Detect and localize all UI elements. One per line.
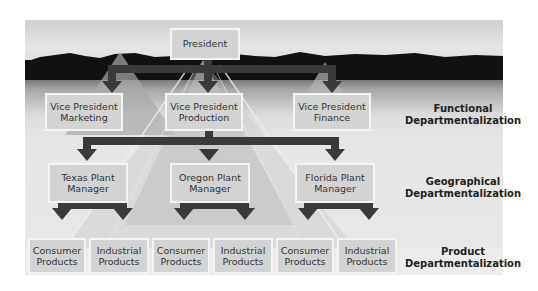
background-illustration — [25, 20, 503, 275]
vp-production-box: Vice President Production — [165, 93, 243, 131]
florida-line1: Florida Plant — [305, 172, 364, 184]
vp-finance-line1: Vice President — [298, 101, 365, 113]
functional-level-label: Functional Departmentalization — [388, 103, 538, 127]
product-line1: Consumer — [157, 245, 205, 257]
product-box-oregon-industrial: Industrial Products — [213, 238, 273, 274]
level-label-line1: Product — [388, 246, 538, 258]
geographical-level-label: Geographical Departmentalization — [388, 176, 538, 200]
vp-production-line2: Production — [179, 112, 230, 124]
org-chart-frame — [25, 20, 503, 275]
level-label-line1: Functional — [388, 103, 538, 115]
texas-line2: Manager — [67, 183, 109, 195]
product-line2: Products — [160, 256, 201, 268]
product-box-florida-consumer: Consumer Products — [276, 238, 334, 274]
product-line1: Industrial — [345, 245, 390, 257]
product-level-label: Product Departmentalization — [388, 246, 538, 270]
product-line2: Products — [284, 256, 325, 268]
product-box-texas-industrial: Industrial Products — [89, 238, 149, 274]
oregon-line2: Manager — [189, 183, 231, 195]
product-line2: Products — [36, 256, 77, 268]
vp-marketing-line2: Marketing — [60, 112, 107, 124]
florida-plant-box: Florida Plant Manager — [295, 163, 375, 203]
product-line2: Products — [222, 256, 263, 268]
texas-line1: Texas Plant — [61, 172, 114, 184]
vp-production-line1: Vice President — [170, 101, 237, 113]
product-line1: Consumer — [33, 245, 81, 257]
vp-marketing-box: Vice President Marketing — [45, 93, 123, 131]
level-label-line1: Geographical — [388, 176, 538, 188]
product-line1: Industrial — [221, 245, 266, 257]
product-line1: Consumer — [281, 245, 329, 257]
level-label-line2: Departmentalization — [388, 115, 538, 127]
oregon-line1: Oregon Plant — [179, 172, 241, 184]
product-line2: Products — [346, 256, 387, 268]
product-line2: Products — [98, 256, 139, 268]
vp-finance-box: Vice President Finance — [293, 93, 371, 131]
president-box: President — [170, 28, 240, 60]
vp-finance-line2: Finance — [314, 112, 350, 124]
product-line1: Industrial — [97, 245, 142, 257]
president-label: President — [183, 38, 227, 50]
texas-plant-box: Texas Plant Manager — [48, 163, 128, 203]
vp-marketing-line1: Vice President — [50, 101, 117, 113]
oregon-plant-box: Oregon Plant Manager — [170, 163, 250, 203]
level-label-line2: Departmentalization — [388, 258, 538, 270]
florida-line2: Manager — [314, 183, 356, 195]
product-box-texas-consumer: Consumer Products — [28, 238, 86, 274]
level-label-line2: Departmentalization — [388, 188, 538, 200]
product-box-oregon-consumer: Consumer Products — [152, 238, 210, 274]
